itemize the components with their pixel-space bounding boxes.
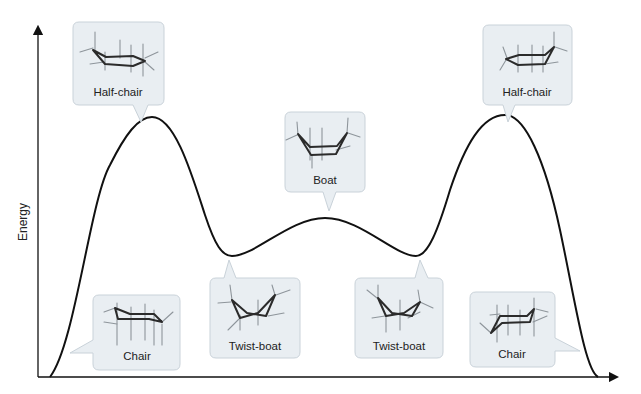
bubble-boat: Boat — [285, 112, 365, 211]
energy-diagram: Energy Half-chair — [0, 0, 641, 394]
bubble-half-chair-right: Half-chair — [483, 25, 572, 122]
label-chair-left: Chair — [123, 350, 151, 362]
label-half-chair-right: Half-chair — [502, 86, 551, 98]
bubble-twist-boat-left: Twist-boat — [210, 260, 300, 358]
bubble-chair-left: Chair — [70, 295, 180, 370]
bubble-chair-right: Chair — [470, 292, 580, 367]
bubble-twist-boat-right: Twist-boat — [355, 260, 443, 358]
label-twist-boat-left: Twist-boat — [229, 340, 282, 352]
bubble-half-chair-left: Half-chair — [73, 22, 164, 122]
label-half-chair-left: Half-chair — [93, 86, 142, 98]
label-chair-right: Chair — [498, 348, 526, 360]
label-boat: Boat — [313, 174, 337, 186]
label-twist-boat-right: Twist-boat — [373, 340, 426, 352]
y-axis-label: Energy — [16, 203, 30, 241]
